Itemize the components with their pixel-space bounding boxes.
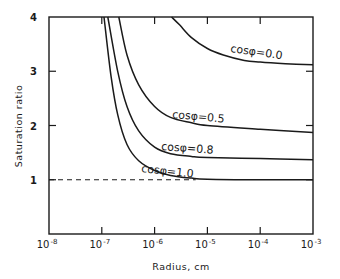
y-tick-label: 3 bbox=[30, 66, 37, 77]
curve-label: cosφ=0.5 bbox=[172, 108, 225, 126]
y-axis-title: Saturation ratio bbox=[13, 85, 24, 167]
x-tick-label: 10-4 bbox=[248, 238, 269, 250]
y-axis-ticks: 1234 bbox=[30, 12, 313, 186]
x-tick-label: 10-3 bbox=[301, 238, 322, 250]
y-tick-label: 2 bbox=[30, 121, 37, 132]
x-tick-label: 10-5 bbox=[195, 238, 216, 250]
curve-label: cosφ=0.8 bbox=[161, 140, 214, 157]
x-tick-label: 10-8 bbox=[37, 238, 58, 250]
curve bbox=[108, 17, 313, 160]
saturation-ratio-chart: 10-810-710-610-510-410-3 1234 cosφ=0.0co… bbox=[0, 0, 340, 279]
y-tick-label: 1 bbox=[30, 175, 37, 186]
x-tick-label: 10-7 bbox=[89, 238, 110, 250]
curve-label: cosφ=1.0 bbox=[141, 162, 195, 180]
y-tick-label: 4 bbox=[30, 12, 37, 23]
curve bbox=[172, 17, 313, 65]
x-axis-title: Radius, cm bbox=[152, 261, 209, 272]
x-tick-label: 10-6 bbox=[142, 238, 163, 250]
